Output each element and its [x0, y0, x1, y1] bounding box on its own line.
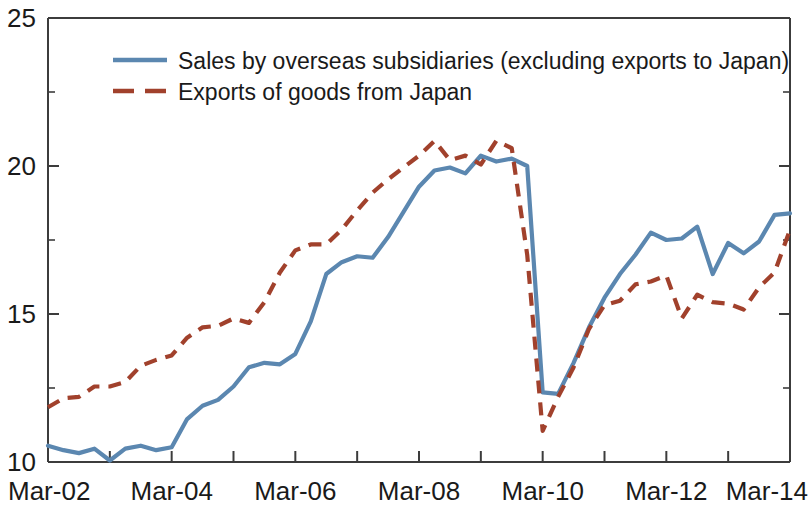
x-tick-label: Mar-06	[254, 476, 336, 506]
legend-label-exports: Exports of goods from Japan	[178, 79, 472, 105]
x-tick-label: Mar-02	[8, 476, 90, 506]
y-tick-label: 25	[7, 3, 36, 33]
x-tick-label: Mar-14	[726, 476, 808, 506]
y-tick-label: 20	[7, 151, 36, 181]
x-tick-label: Mar-10	[501, 476, 583, 506]
legend-label-overseas-sales: Sales by overseas subsidiaries (excludin…	[178, 48, 789, 74]
line-chart: 10152025 Mar-02Mar-04Mar-06Mar-08Mar-10M…	[0, 0, 810, 521]
x-tick-label: Mar-12	[625, 476, 707, 506]
x-tick-label: Mar-04	[130, 476, 212, 506]
y-tick-label: 10	[7, 447, 36, 477]
y-tick-label: 15	[7, 299, 36, 329]
chart-container: 10152025 Mar-02Mar-04Mar-06Mar-08Mar-10M…	[0, 0, 810, 521]
x-tick-label: Mar-08	[378, 476, 460, 506]
